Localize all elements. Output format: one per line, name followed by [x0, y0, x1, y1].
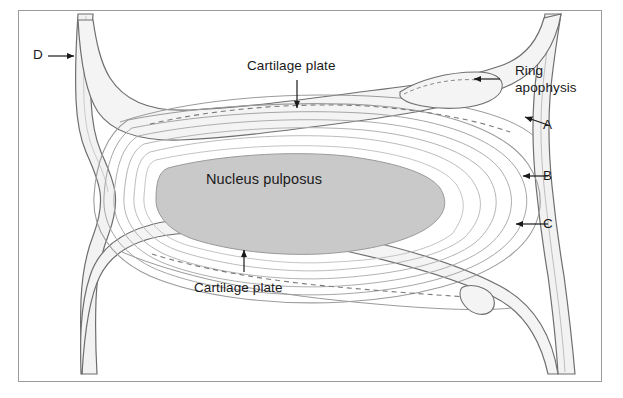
label-ring-apophysis-line2: apophysis — [515, 80, 577, 96]
label-cartilage-plate-bottom: Cartilage plate — [194, 280, 283, 296]
label-marker-d: D — [33, 47, 43, 63]
label-ring-apophysis-line1: Ring — [515, 63, 543, 79]
label-marker-b: B — [543, 168, 552, 184]
nucleus-pulposus-shape — [156, 154, 445, 255]
label-marker-c: C — [543, 216, 553, 232]
label-marker-a: A — [543, 117, 552, 133]
label-nucleus-pulposus: Nucleus pulposus — [206, 171, 322, 188]
label-cartilage-plate-top: Cartilage plate — [247, 58, 336, 74]
figure-canvas: D A B C Cartilage plate Cartilage plate … — [0, 0, 623, 398]
ring-apophysis-top-shape — [400, 72, 502, 108]
